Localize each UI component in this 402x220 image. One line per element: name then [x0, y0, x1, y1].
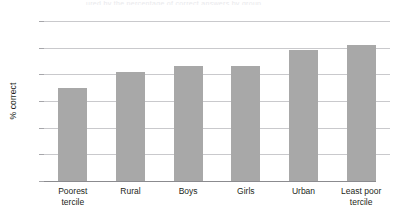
bar-chart-figure: ured by the percentage of correct answer…: [0, 0, 402, 220]
x-tick-label: Least poortercile: [324, 186, 398, 207]
bar: [116, 72, 145, 181]
bar: [231, 66, 260, 181]
gridline: [44, 101, 390, 102]
y-tick-mark: [39, 181, 44, 182]
bar: [58, 88, 87, 181]
gridline: [44, 21, 390, 22]
y-tick-mark: [39, 21, 44, 22]
gridline: [44, 128, 390, 129]
gridline: [44, 74, 390, 75]
y-tick-mark: [39, 74, 44, 75]
y-tick-mark: [39, 154, 44, 155]
cropped-caption-sliver: ured by the percentage of correct answer…: [0, 0, 402, 5]
bar: [289, 50, 318, 181]
x-axis-line: [44, 181, 376, 182]
plot-area: 0102030405060: [44, 21, 390, 181]
y-tick-mark: [39, 48, 44, 49]
gridline: [44, 48, 390, 49]
y-tick-mark: [39, 101, 44, 102]
y-tick-mark: [39, 128, 44, 129]
y-axis-title: % correct: [8, 71, 18, 131]
gridline: [44, 154, 390, 155]
bar: [347, 45, 376, 181]
bar: [174, 66, 203, 181]
